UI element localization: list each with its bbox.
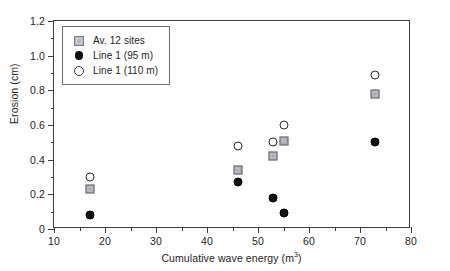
x-tick-major xyxy=(411,227,412,233)
y-tick-label: 0 xyxy=(39,223,45,235)
x-tick-minor xyxy=(182,227,183,231)
y-tick-minor xyxy=(51,212,55,213)
legend-item: Line 1 (95 m) xyxy=(72,48,158,63)
y-tick-label: 0.6 xyxy=(30,119,45,131)
data-point xyxy=(279,136,288,145)
x-tick-major xyxy=(258,227,259,233)
x-tick-minor xyxy=(335,227,336,231)
x-tick-minor xyxy=(80,227,81,231)
y-tick-minor xyxy=(51,108,55,109)
x-tick-major xyxy=(207,227,208,233)
x-tick-minor xyxy=(233,227,234,231)
legend-marker-shape xyxy=(74,66,84,76)
data-point xyxy=(269,152,278,161)
y-tick-minor xyxy=(51,38,55,39)
legend-marker-shape xyxy=(75,51,84,60)
legend-marker-icon xyxy=(72,51,86,60)
x-tick-label: 20 xyxy=(99,235,111,247)
legend-item: Av. 12 sites xyxy=(72,33,158,48)
x-tick-label: 40 xyxy=(201,235,213,247)
legend-marker-icon xyxy=(72,66,86,76)
legend-label: Line 1 (110 m) xyxy=(93,65,158,76)
y-axis-title: Erosion (cm) xyxy=(8,63,20,124)
y-tick-minor xyxy=(51,73,55,74)
scatter-chart: Erosion (cm) 00.20.40.60.81.01.2 1020304… xyxy=(0,0,450,271)
x-tick-major xyxy=(54,227,55,233)
data-point xyxy=(233,166,242,175)
x-tick-label: 30 xyxy=(150,235,162,247)
y-tick-label: 1.2 xyxy=(30,15,45,27)
x-tick-label: 60 xyxy=(303,235,315,247)
x-axis-title-base: Cumulative wave energy (m xyxy=(161,252,294,264)
legend-item: Line 1 (110 m) xyxy=(72,63,158,78)
y-tick-major xyxy=(48,90,54,91)
x-tick-minor xyxy=(284,227,285,231)
x-tick-label: 10 xyxy=(48,235,60,247)
data-point xyxy=(85,211,94,220)
x-tick-label: 50 xyxy=(252,235,264,247)
data-point xyxy=(269,138,278,147)
data-point xyxy=(371,89,380,98)
x-tick-label: 70 xyxy=(354,235,366,247)
data-point xyxy=(85,173,94,182)
x-tick-minor xyxy=(386,227,387,231)
legend-marker-shape xyxy=(74,36,84,46)
y-tick-major xyxy=(48,160,54,161)
data-point xyxy=(279,209,288,218)
data-point xyxy=(233,141,242,150)
y-tick-major xyxy=(48,21,54,22)
y-tick-major xyxy=(48,194,54,195)
data-point xyxy=(85,185,94,194)
x-tick-major xyxy=(360,227,361,233)
legend-marker-icon xyxy=(72,36,86,46)
data-point xyxy=(371,70,380,79)
data-point xyxy=(279,121,288,130)
data-point xyxy=(233,178,242,187)
x-tick-major xyxy=(156,227,157,233)
legend: Av. 12 sitesLine 1 (95 m)Line 1 (110 m) xyxy=(62,26,170,85)
y-tick-major xyxy=(48,125,54,126)
data-point xyxy=(269,193,278,202)
legend-label: Line 1 (95 m) xyxy=(93,50,153,61)
x-axis-title-tail: ) xyxy=(298,252,302,264)
y-tick-major xyxy=(48,56,54,57)
data-point xyxy=(371,138,380,147)
y-tick-minor xyxy=(51,177,55,178)
y-tick-minor xyxy=(51,142,55,143)
x-axis-title: Cumulative wave energy (m3) xyxy=(53,251,410,264)
y-tick-label: 1.0 xyxy=(30,50,45,62)
y-tick-label: 0.8 xyxy=(30,84,45,96)
x-tick-major xyxy=(105,227,106,233)
legend-label: Av. 12 sites xyxy=(93,35,145,46)
y-tick-label: 0.4 xyxy=(30,154,45,166)
x-tick-minor xyxy=(131,227,132,231)
x-tick-major xyxy=(309,227,310,233)
x-tick-label: 80 xyxy=(405,235,417,247)
y-tick-label: 0.2 xyxy=(30,188,45,200)
